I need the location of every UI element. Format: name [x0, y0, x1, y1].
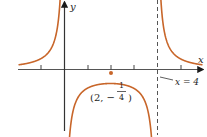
svg-text:1: 1: [119, 81, 124, 90]
svg-text:4: 4: [119, 93, 124, 102]
asymptote-leader: [160, 77, 173, 80]
curve-left-branch: [19, 0, 63, 65]
curve-right-branch: [158, 0, 203, 65]
svg-text:(2, −: (2, −: [90, 92, 115, 103]
local-max-point: [109, 71, 113, 75]
svg-text:): ): [128, 92, 132, 103]
graph: y x x = 4 (2, − 1 4 ): [0, 0, 207, 137]
x-axis-label: x: [198, 54, 204, 65]
asymptote-label: x = 4: [175, 77, 199, 87]
graph-svg: y x x = 4 (2, − 1 4 ): [0, 0, 207, 137]
y-axis-label: y: [69, 1, 76, 12]
